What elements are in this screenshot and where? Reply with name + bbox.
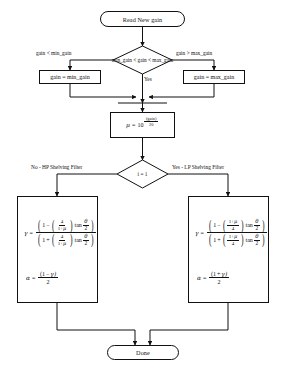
- lp-num-tan: tan: [244, 222, 252, 228]
- lp-alpha-num-gamma: γ): [221, 271, 227, 277]
- edge-label-above-max-text: gain > max_gain: [176, 50, 212, 56]
- lp-alpha-denominator: 2: [216, 278, 222, 285]
- hp-gamma-equation: γ = ( 1 − ( 4: [24, 219, 97, 247]
- hp-alpha-equals: =: [30, 275, 37, 281]
- edge-label-below-min: gain < min_gain: [36, 50, 71, 56]
- edge-label-lp-text: Yes - LP Shelving Filter: [172, 164, 224, 170]
- lp-gamma-numerator: ( 1 − ( 1 +: [207, 219, 267, 233]
- edge-label-in-range-text: Yes: [144, 76, 152, 82]
- lp-filter-box: γ = ( 1 − (: [188, 196, 269, 303]
- edge-label-lp: Yes - LP Shelving Filter: [172, 164, 224, 170]
- edge-label-in-range: Yes: [144, 76, 152, 82]
- mu-exponent-denominator: 20: [147, 122, 154, 127]
- hp-den-two: 2: [83, 241, 89, 247]
- lp-gamma-equals: =: [199, 230, 206, 236]
- mu-exponent: (gain) 20: [144, 117, 157, 128]
- decision-gain-range-label: min_gain < gain < max_gain: [113, 46, 172, 74]
- hp-alpha-equation: α = (1 − γ) 2: [26, 271, 59, 285]
- decision-filter-type-label: i = 1: [117, 160, 168, 188]
- lp-den-inner-den: 4: [230, 241, 236, 247]
- lp-gamma-denominator: ( 1 + ( 1 +: [207, 233, 267, 246]
- hp-alpha-denominator: 2: [45, 278, 51, 285]
- hp-num-two: 2: [83, 226, 89, 232]
- lp-den-two: 2: [254, 241, 260, 247]
- hp-inner-den-mu: μ: [63, 226, 66, 231]
- clamp-min-box: gain = min_gain: [39, 70, 101, 84]
- clamp-max-label: gain = max_gain: [194, 74, 234, 80]
- lp-num-two: 2: [254, 226, 260, 232]
- hp-gamma-equals: =: [28, 230, 35, 236]
- start-terminal: Read New gain: [100, 11, 185, 27]
- edge-label-below-min-text: gain < min_gain: [36, 50, 71, 56]
- hp-den-tan: tan: [73, 237, 81, 243]
- edge-label-hp: No - HP Shelving Filter: [31, 164, 82, 170]
- clamp-max-box: gain = max_gain: [183, 70, 245, 84]
- edge-label-hp-text: No - HP Shelving Filter: [31, 164, 82, 170]
- mu-equals: =: [130, 122, 137, 128]
- start-terminal-label: Read New gain: [123, 16, 162, 23]
- decision-gain-range: min_gain < gain < max_gain: [113, 46, 172, 74]
- flowchart-canvas: Read New gain min_gain < gain < max_gain…: [0, 0, 285, 379]
- mu-base: 10: [137, 122, 143, 128]
- mu-equation: μ = 10 (gain) 20: [126, 120, 159, 131]
- edge-label-above-max: gain > max_gain: [176, 50, 212, 56]
- end-terminal: Done: [107, 345, 179, 360]
- lp-gamma-equation: γ = ( 1 − (: [195, 219, 268, 247]
- lp-alpha-numerator: (1 + γ): [209, 271, 228, 278]
- lp-alpha-equals: =: [201, 275, 208, 281]
- lp-alpha-equation: α = (1 + γ) 2: [197, 271, 230, 285]
- hp-gamma-denominator: ( 1 + ( 4 1 +: [36, 233, 96, 246]
- hp-filter-box: γ = ( 1 − ( 4: [17, 196, 98, 303]
- decision-filter-type: i = 1: [117, 160, 168, 188]
- hp-den-inner-mu: μ: [63, 241, 66, 246]
- lp-den-tan: tan: [244, 237, 252, 243]
- hp-alpha-numerator: (1 − γ): [38, 271, 57, 278]
- lp-den-inner-mu: μ: [234, 234, 237, 239]
- end-terminal-label: Done: [136, 349, 150, 356]
- hp-gamma-numerator: ( 1 − ( 4 1 +: [36, 219, 96, 233]
- mu-compute-box: μ = 10 (gain) 20: [110, 112, 175, 138]
- lp-inner-den: 4: [230, 226, 236, 232]
- hp-num-tan: tan: [73, 222, 81, 228]
- lp-inner-num-mu: μ: [234, 219, 237, 224]
- clamp-min-label: gain = min_gain: [50, 74, 89, 80]
- hp-alpha-num-gamma: γ): [50, 271, 56, 277]
